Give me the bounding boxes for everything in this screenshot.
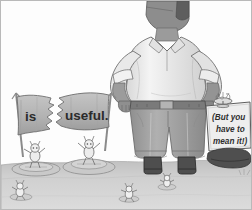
sign-text-line-1: (But you	[212, 113, 245, 122]
banner-right-text: useful.	[65, 108, 109, 123]
giant-neck	[155, 28, 179, 41]
sign-board: (But you have to mean it!)	[206, 102, 251, 151]
sign-base-shadow	[207, 148, 251, 168]
banner-left-text: is	[25, 109, 36, 124]
sign-text-line-3: mean it!)	[213, 137, 247, 146]
cartoon-illustration: is useful. (But you have to mean	[1, 1, 252, 210]
banner-left-half: is	[17, 95, 54, 135]
banner-right-half: useful.	[56, 93, 109, 130]
sign-text-line-2: have to	[216, 125, 245, 134]
cartoon-frame: is useful. (But you have to mean	[0, 0, 252, 210]
